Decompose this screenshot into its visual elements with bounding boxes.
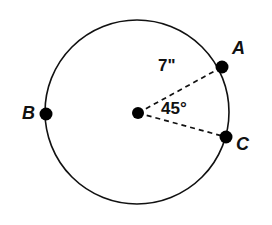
diagram-canvas <box>0 0 272 225</box>
point-b-dot <box>40 108 53 121</box>
point-b-label: B <box>22 104 35 122</box>
point-a-label: A <box>232 39 245 57</box>
point-c-dot <box>220 131 233 144</box>
point-a-dot <box>216 61 229 74</box>
point-c-label: C <box>236 135 249 153</box>
center-point-dot <box>132 107 144 119</box>
circle-diagram: A B C 7" 45° <box>0 0 272 225</box>
radius-measure-label: 7" <box>158 57 176 74</box>
central-angle-label: 45° <box>161 100 187 117</box>
